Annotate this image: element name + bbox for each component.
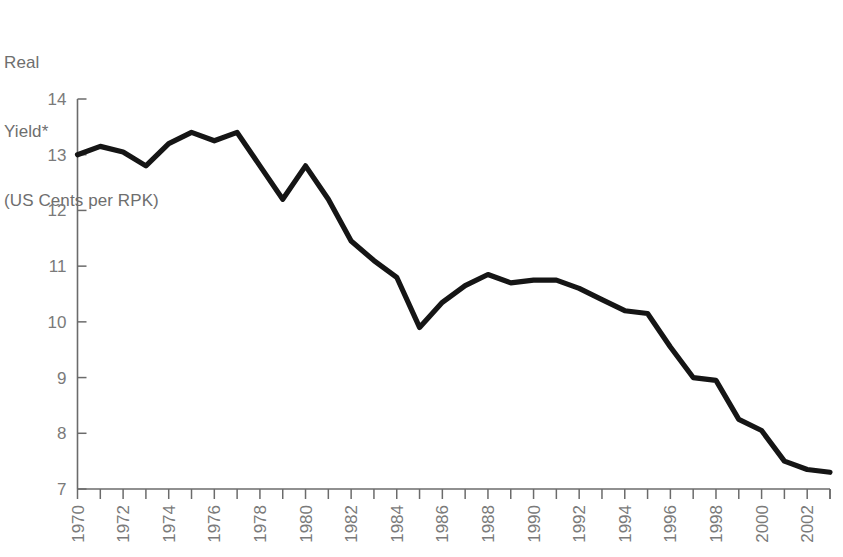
chart-figure: Real Yield* (US Cents per RPK) 789101112… xyxy=(0,0,843,557)
x-axis-tick-label: 1970 xyxy=(69,505,88,543)
y-axis-tick-label: 13 xyxy=(48,146,67,165)
x-axis: 1970197219741976197819801982198419861988… xyxy=(69,489,831,543)
y-axis-tick-label: 12 xyxy=(48,201,67,220)
x-axis-tick-label: 2000 xyxy=(753,505,772,543)
x-axis-tick-label: 1980 xyxy=(297,505,316,543)
x-axis-tick-label: 1972 xyxy=(114,505,133,543)
y-axis-tick-label: 11 xyxy=(49,257,67,276)
y-axis-tick-label: 14 xyxy=(48,90,67,109)
x-axis-tick-label: 1998 xyxy=(707,505,726,543)
x-axis-tick-label: 1992 xyxy=(570,505,589,543)
x-axis-tick-label: 1974 xyxy=(160,505,179,543)
x-axis-tick-label: 2002 xyxy=(798,505,817,543)
y-axis-tick-label: 7 xyxy=(57,480,66,499)
x-axis-tick-label: 1990 xyxy=(525,505,544,543)
data-series-group xyxy=(78,132,831,472)
x-axis-tick-label: 1994 xyxy=(616,505,635,543)
y-axis-tick-label: 9 xyxy=(57,369,66,388)
x-axis-tick-label: 1978 xyxy=(251,505,270,543)
x-axis-tick-label: 1996 xyxy=(661,505,680,543)
y-axis-tick-label: 10 xyxy=(48,313,67,332)
x-axis-tick-label: 1986 xyxy=(433,505,452,543)
line-chart-plot: 7891011121314 19701972197419761978198019… xyxy=(0,0,843,557)
x-axis-tick-label: 1988 xyxy=(479,505,498,543)
x-axis-tick-label: 1976 xyxy=(205,505,224,543)
x-axis-tick-label: 1984 xyxy=(388,505,407,543)
x-axis-tick-label: 1982 xyxy=(342,505,361,543)
y-axis-tick-label: 8 xyxy=(57,424,66,443)
series-line-real-yield xyxy=(78,132,831,472)
